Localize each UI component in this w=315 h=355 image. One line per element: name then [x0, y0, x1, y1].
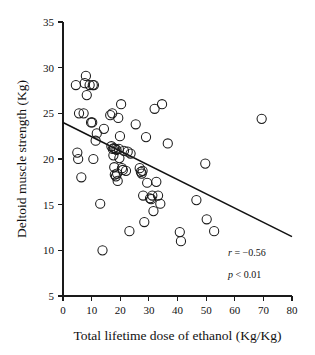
data-point — [141, 132, 150, 141]
scatter-plot-figure: 510152025303501020304050607080Total life… — [0, 0, 315, 355]
annotation-p: p < 0.01 — [227, 269, 261, 280]
data-point — [149, 206, 158, 215]
y-tick-label: 10 — [43, 244, 55, 256]
data-point — [82, 90, 91, 99]
data-point — [115, 132, 124, 141]
x-tick-label: 10 — [86, 304, 98, 316]
y-tick-label: 15 — [43, 199, 55, 211]
annotation-value: = −0.56 — [232, 247, 266, 258]
data-point — [257, 114, 266, 123]
x-tick-label: 50 — [201, 304, 213, 316]
y-tick-label: 25 — [43, 107, 55, 119]
data-point — [125, 227, 134, 236]
regression-line — [63, 122, 292, 236]
data-point — [117, 100, 126, 109]
data-point — [157, 100, 166, 109]
chart-canvas: 510152025303501020304050607080Total life… — [0, 0, 315, 355]
data-point — [108, 109, 117, 118]
y-tick-label: 20 — [43, 153, 55, 165]
data-point — [96, 199, 105, 208]
y-axis-title: Deltoid muscle strength (Kg) — [14, 80, 29, 238]
x-tick-label: 60 — [229, 304, 241, 316]
data-point — [201, 159, 210, 168]
data-point — [152, 177, 161, 186]
x-tick-label: 40 — [172, 304, 184, 316]
data-point — [99, 124, 108, 133]
data-point — [202, 215, 211, 224]
x-axis-title: Total lifetime dose of ethanol (Kg/Kg) — [74, 328, 282, 343]
x-tick-label: 70 — [258, 304, 270, 316]
y-tick-label: 5 — [49, 290, 55, 302]
annotation-r: r = −0.56 — [228, 247, 266, 258]
data-point — [114, 113, 123, 122]
annotation-value: < 0.01 — [233, 269, 261, 280]
data-point — [71, 80, 80, 89]
data-point — [98, 246, 107, 255]
y-tick-label: 30 — [43, 62, 55, 74]
data-point — [176, 237, 185, 246]
data-point — [143, 178, 152, 187]
data-point — [163, 139, 172, 148]
x-tick-label: 0 — [60, 304, 66, 316]
data-point — [156, 199, 165, 208]
data-point — [77, 173, 86, 182]
y-tick-label: 35 — [43, 16, 55, 28]
x-tick-label: 80 — [287, 304, 299, 316]
data-point — [89, 154, 98, 163]
data-point — [131, 120, 140, 129]
data-point — [73, 148, 82, 157]
data-point — [74, 154, 83, 163]
data-point — [140, 217, 149, 226]
x-tick-label: 30 — [143, 304, 155, 316]
data-point — [192, 196, 201, 205]
data-series-subjects — [71, 71, 266, 255]
x-tick-label: 20 — [115, 304, 127, 316]
data-point — [175, 227, 184, 236]
data-point — [210, 227, 219, 236]
